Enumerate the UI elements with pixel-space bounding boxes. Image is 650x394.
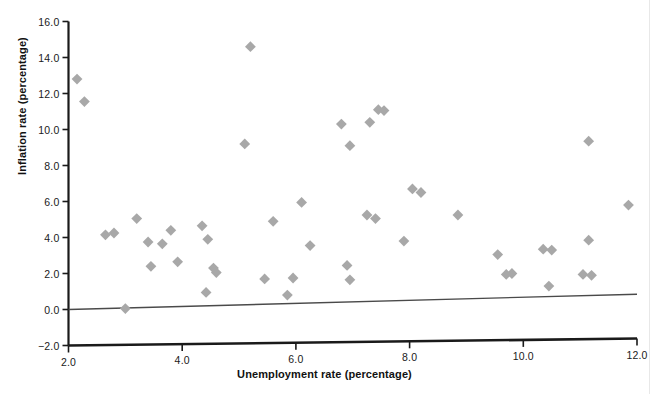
data-point-marker bbox=[492, 249, 503, 260]
data-point-marker bbox=[259, 274, 270, 285]
y-axis-title: Inflation rate (percentage) bbox=[16, 0, 28, 216]
scatter-plot-figure: 16.014.012.010.08.06.04.02.00.0−2.0 2.04… bbox=[0, 0, 650, 394]
data-point-marker bbox=[201, 287, 212, 298]
data-point-marker bbox=[172, 256, 183, 267]
data-point-marker bbox=[282, 290, 293, 301]
data-point-marker bbox=[364, 117, 375, 128]
x-axis-title: Unemployment rate (percentage) bbox=[0, 368, 649, 380]
data-point-marker bbox=[202, 234, 213, 245]
data-point-marker bbox=[623, 200, 634, 211]
trend-line bbox=[69, 294, 638, 309]
data-point-marker bbox=[296, 197, 307, 208]
data-points-group bbox=[72, 41, 634, 314]
y-axis-tick-label: 0.0 bbox=[14, 304, 60, 316]
data-point-marker bbox=[79, 96, 90, 107]
x-axis-tick-label: 8.0 bbox=[402, 351, 417, 363]
x-axis-line bbox=[69, 339, 638, 346]
axes-group bbox=[63, 22, 638, 353]
data-point-marker bbox=[72, 74, 83, 85]
data-point-marker bbox=[583, 136, 594, 147]
x-axis-tick-label: 6.0 bbox=[288, 353, 303, 365]
data-point-marker bbox=[538, 244, 549, 255]
data-point-marker bbox=[157, 238, 168, 249]
data-point-marker bbox=[197, 220, 208, 231]
x-axis-tick-label: 2.0 bbox=[61, 356, 76, 368]
data-point-marker bbox=[131, 213, 142, 224]
data-point-marker bbox=[100, 229, 111, 240]
x-axis-tick-label: 4.0 bbox=[175, 354, 190, 366]
data-point-marker bbox=[239, 139, 250, 150]
y-axis-tick-label: 4.0 bbox=[14, 232, 60, 244]
data-point-marker bbox=[583, 235, 594, 246]
data-point-marker bbox=[453, 210, 464, 221]
data-point-marker bbox=[543, 281, 554, 292]
data-point-marker bbox=[336, 119, 347, 130]
data-point-marker bbox=[342, 260, 353, 271]
x-axis-tick-label: 12.0 bbox=[626, 349, 647, 361]
data-point-marker bbox=[146, 261, 157, 272]
plot-canvas bbox=[0, 0, 650, 394]
x-axis-tick-label: 10.0 bbox=[513, 350, 534, 362]
data-point-marker bbox=[586, 270, 597, 281]
data-point-marker bbox=[245, 41, 256, 52]
data-point-marker bbox=[109, 228, 120, 239]
y-axis-tick-label: 2.0 bbox=[14, 268, 60, 280]
data-point-marker bbox=[165, 225, 176, 236]
y-axis-tick-label: −2.0 bbox=[14, 340, 60, 352]
data-point-marker bbox=[345, 140, 356, 151]
data-point-marker bbox=[120, 303, 131, 314]
data-point-marker bbox=[578, 269, 589, 280]
data-point-marker bbox=[345, 274, 356, 285]
trendline bbox=[69, 294, 638, 309]
data-point-marker bbox=[546, 245, 557, 256]
data-point-marker bbox=[399, 236, 410, 247]
data-point-marker bbox=[288, 273, 299, 284]
data-point-marker bbox=[143, 237, 154, 248]
data-point-marker bbox=[305, 240, 316, 251]
data-point-marker bbox=[268, 216, 279, 227]
